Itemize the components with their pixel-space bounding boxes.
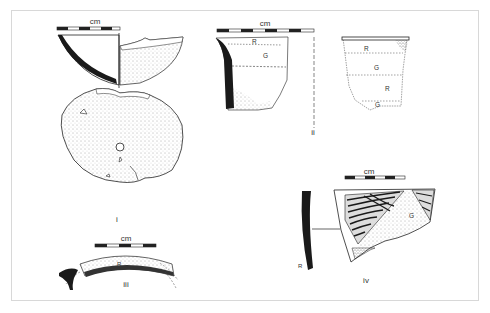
item-iii: cm R iii [59, 234, 178, 290]
sherd-face-iv: G [334, 189, 435, 262]
rim-fragment-iii: R [59, 256, 178, 290]
band-label-g: G [375, 101, 380, 108]
vessel-section-ii: R G [216, 37, 314, 128]
bowl-section [58, 33, 119, 88]
item-label-i: i [116, 215, 118, 224]
band-label-r: R [298, 263, 303, 269]
scale-unit-label: cm [121, 234, 132, 243]
scale-unit-label: cm [260, 19, 271, 28]
sherd-section-iv: R [298, 191, 340, 270]
item-iv: cm R [298, 167, 435, 285]
scale-bar-ii: cm [217, 19, 314, 32]
band-label-r: R [252, 38, 257, 45]
item-label-ii: ii [311, 128, 315, 137]
scale-bar-i: cm [57, 17, 120, 30]
bowl-plan [61, 89, 183, 183]
band-label-g: G [263, 52, 268, 59]
band-label-g: G [374, 64, 379, 71]
perforation-hole [116, 143, 124, 151]
band-label-r: R [117, 261, 122, 267]
scale-unit-label: cm [90, 17, 101, 26]
item-i: cm i [57, 17, 183, 224]
band-label-r: R [364, 45, 369, 52]
scale-unit-label: cm [364, 167, 375, 176]
rim-section-iii [59, 269, 78, 290]
pottery-figure: cm i cm [0, 0, 490, 313]
band-label-g: G [409, 212, 414, 219]
scale-bar-iii: cm [95, 234, 156, 247]
vessel-exterior-ii: R G R G [342, 37, 409, 110]
band-label-r: R [385, 85, 390, 92]
item-label-iii: iii [123, 280, 129, 289]
bowl-exterior [120, 37, 183, 85]
item-label-iv: iv [363, 276, 369, 285]
scale-bar-iv: cm [345, 167, 405, 179]
item-ii: cm R G R G R G i [216, 19, 409, 137]
